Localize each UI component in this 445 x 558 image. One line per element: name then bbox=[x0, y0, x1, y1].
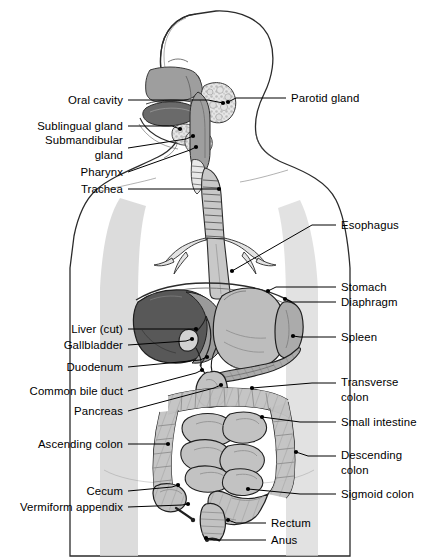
leader-dot-duodenum bbox=[205, 355, 209, 359]
leader-dot-rectum bbox=[226, 518, 230, 522]
leader-dot-small-intestine bbox=[260, 415, 264, 419]
leader-dot-liver-cut bbox=[194, 327, 198, 331]
leader-dot-parotid-gland bbox=[226, 100, 230, 104]
label-parotid-gland: Parotid gland bbox=[291, 91, 359, 106]
leader-sublingual-gland bbox=[128, 126, 180, 129]
leader-dot-submandibular-gland bbox=[191, 134, 195, 138]
leader-dot-stomach bbox=[266, 289, 270, 293]
leader-dot-spleen bbox=[291, 334, 295, 338]
label-trachea: Trachea bbox=[81, 182, 123, 197]
label-anus: Anus bbox=[271, 533, 297, 548]
label-sublingual-gland: Sublingual gland bbox=[37, 119, 123, 134]
label-stomach: Stomach bbox=[341, 280, 387, 295]
label-liver-cut: Liver (cut) bbox=[71, 322, 123, 337]
leader-dot-trachea bbox=[217, 187, 221, 191]
label-pharynx: Pharynx bbox=[81, 165, 124, 180]
label-vermiform-appendix: Vermiform appendix bbox=[20, 500, 123, 515]
label-small-intestine: Small intestine bbox=[341, 415, 417, 430]
label-descending-colon: Descending colon bbox=[341, 448, 402, 478]
leader-dot-gallbladder bbox=[190, 337, 194, 341]
label-spleen: Spleen bbox=[341, 330, 377, 345]
leader-dot-vermiform-appendix bbox=[186, 502, 190, 506]
label-common-bile-duct: Common bile duct bbox=[30, 384, 123, 399]
leader-dot-oral-cavity bbox=[221, 101, 225, 105]
label-duodenum: Duodenum bbox=[66, 360, 123, 375]
leader-dot-cecum bbox=[176, 483, 180, 487]
label-rectum: Rectum bbox=[271, 516, 311, 531]
label-transverse-colon: Transverse colon bbox=[341, 375, 399, 405]
leader-dot-pharynx bbox=[194, 145, 198, 149]
label-gallbladder: Gallbladder bbox=[64, 338, 123, 353]
label-cecum: Cecum bbox=[86, 484, 123, 499]
digestive-system-figure: Oral cavitySublingual glandSubmandibular… bbox=[0, 0, 445, 558]
label-diaphragm: Diaphragm bbox=[341, 295, 398, 310]
small-intestine-art bbox=[181, 412, 267, 496]
tongue bbox=[143, 102, 197, 126]
label-pancreas: Pancreas bbox=[74, 404, 123, 419]
label-sigmoid-colon: Sigmoid colon bbox=[341, 487, 414, 502]
label-esophagus: Esophagus bbox=[341, 218, 399, 233]
leader-dot-ascending-colon bbox=[166, 442, 170, 446]
label-ascending-colon: Ascending colon bbox=[38, 437, 123, 452]
label-submandibular-gland: Submandibular gland bbox=[45, 133, 123, 163]
leader-dot-esophagus bbox=[230, 269, 234, 273]
leader-dot-transverse-colon bbox=[250, 386, 254, 390]
rectum-art bbox=[200, 503, 225, 540]
leader-dot-anus bbox=[204, 536, 208, 540]
leader-dot-sublingual-gland bbox=[178, 127, 182, 131]
leader-dot-pancreas bbox=[219, 383, 223, 387]
label-oral-cavity: Oral cavity bbox=[68, 93, 123, 108]
leader-dot-diaphragm bbox=[283, 297, 287, 301]
leader-dot-sigmoid-colon bbox=[246, 487, 250, 491]
leader-dot-descending-colon bbox=[294, 450, 298, 454]
leader-dot-common-bile-duct bbox=[200, 368, 204, 372]
